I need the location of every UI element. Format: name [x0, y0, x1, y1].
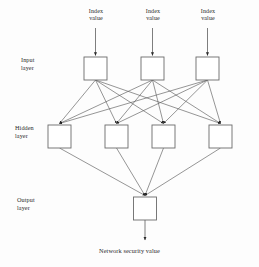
- input-layer-nodes: [84, 57, 219, 80]
- hidden-node-4: [209, 125, 232, 148]
- edges-input-to-hidden: [60, 80, 221, 124]
- input-label-3: Index value: [188, 8, 228, 23]
- hidden-node-3: [152, 125, 175, 148]
- neural-network-figure: Index value Index value Index value Inpu…: [0, 0, 259, 267]
- output-node-1: [134, 197, 157, 220]
- output-layer-label: Output layer: [17, 196, 59, 212]
- input-node-1: [84, 57, 107, 80]
- input-layer-label: Input layer: [21, 56, 61, 72]
- input-node-2: [141, 57, 164, 80]
- input-feed-arrows: [96, 28, 208, 56]
- input-node-3: [196, 57, 219, 80]
- hidden-layer-nodes: [48, 125, 232, 148]
- hidden-node-2: [105, 125, 128, 148]
- edges-hidden-to-output: [60, 148, 221, 196]
- input-label-1: Index value: [76, 8, 116, 23]
- output-caption: Network security value: [0, 247, 259, 254]
- output-layer-nodes: [134, 197, 157, 220]
- input-label-2: Index value: [133, 8, 173, 23]
- hidden-layer-label: Hidden layer: [15, 124, 57, 140]
